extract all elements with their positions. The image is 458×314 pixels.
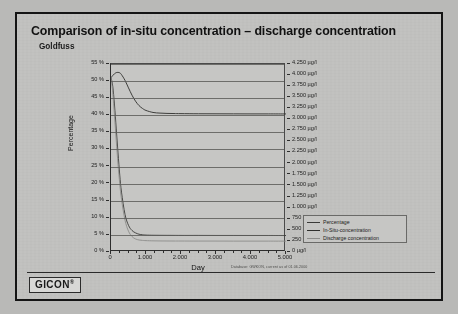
secondary-y-axis-tick-label: 4.250 µg/l: [292, 60, 317, 66]
slide-canvas: Comparison of in-situ concentration – di…: [15, 12, 443, 301]
x-axis-tick-mark: [110, 251, 111, 254]
secondary-y-axis-tick-mark: [287, 196, 290, 197]
y-axis-tick-mark: [106, 80, 109, 81]
x-axis-minor-tick: [154, 251, 155, 253]
x-axis-minor-tick: [206, 251, 207, 253]
x-axis-minor-tick: [276, 251, 277, 253]
secondary-y-axis-tick-mark: [287, 162, 290, 163]
x-axis-tick-mark: [250, 251, 251, 254]
secondary-y-axis-tick-mark: [287, 140, 290, 141]
legend-label: In-Situ-concentration: [323, 227, 371, 233]
gridline: [111, 184, 284, 185]
x-axis-minor-tick: [198, 251, 199, 253]
x-axis-minor-tick: [241, 251, 242, 253]
gridline: [111, 115, 284, 116]
secondary-y-axis-tick-label: 4.000 µg/l: [292, 71, 317, 77]
registered-mark: ®: [70, 279, 75, 285]
x-axis-tick-mark: [215, 251, 216, 254]
legend-item[interactable]: Discharge concentration: [307, 234, 403, 242]
gridline: [111, 98, 284, 99]
secondary-y-axis-tick-mark: [287, 207, 290, 208]
series-lines: [111, 64, 286, 252]
y-axis-tick-label: 20 %: [91, 180, 104, 186]
secondary-y-axis-tick-mark: [287, 96, 290, 97]
gridline: [111, 149, 284, 150]
x-axis-minor-tick: [163, 251, 164, 253]
x-axis-minor-tick: [119, 251, 120, 253]
secondary-y-axis-tick-label: 2.000 µg/l: [292, 160, 317, 166]
y-axis-tick-label: 10 %: [91, 214, 104, 220]
series-line-percentage: [111, 78, 286, 236]
gridline: [111, 201, 284, 202]
series-line-discharge-concentration: [111, 78, 286, 241]
secondary-y-axis-tick-mark: [287, 251, 290, 252]
secondary-y-axis-tick-mark: [287, 118, 290, 119]
series-line-in-situ-concentration: [111, 72, 286, 114]
legend-item[interactable]: Percentage: [307, 218, 403, 226]
secondary-y-axis-tick-label: 0 µg/l: [292, 248, 306, 254]
y-axis-tick-label: 5 %: [94, 231, 104, 237]
logo-text: GICON: [35, 279, 70, 290]
x-axis-tick-label: 1.000: [138, 254, 153, 260]
footer-divider: [27, 272, 435, 273]
x-axis-tick-label: 2.000: [173, 254, 188, 260]
y-axis-tick-mark: [106, 63, 109, 64]
secondary-y-axis-tick-label: 3.750 µg/l: [292, 82, 317, 88]
secondary-y-axis-tick-mark: [287, 184, 290, 185]
x-axis-tick-mark: [145, 251, 146, 254]
chart-container: Percentage 0 %5 %10 %15 %20 %25 %30 %35 …: [17, 14, 445, 303]
y-axis-tick-label: 45 %: [91, 94, 104, 100]
gridline: [111, 167, 284, 168]
legend-color-swatch: [307, 238, 320, 239]
secondary-y-axis-tick-label: 3.500 µg/l: [292, 93, 317, 99]
secondary-y-axis-tick-label: 1.000 µg/l: [292, 204, 317, 210]
y-axis-tick-mark: [106, 200, 109, 201]
secondary-y-axis-tick-label: 1.500 µg/l: [292, 182, 317, 188]
legend-item[interactable]: In-Situ-concentration: [307, 226, 403, 234]
secondary-y-axis-tick-mark: [287, 229, 290, 230]
y-axis-tick-label: 30 %: [91, 145, 104, 151]
y-axis-tick-mark: [106, 114, 109, 115]
secondary-y-axis-tick-label: 1.750 µg/l: [292, 171, 317, 177]
y-axis-label: Percentage: [67, 115, 74, 151]
y-axis-tick-mark: [106, 234, 109, 235]
x-axis-minor-tick: [128, 251, 129, 253]
x-axis-minor-tick: [233, 251, 234, 253]
x-axis-minor-tick: [171, 251, 172, 253]
y-axis-tick-mark: [106, 131, 109, 132]
legend-label: Discharge concentration: [323, 235, 379, 241]
y-axis-tick-mark: [106, 251, 109, 252]
x-axis-minor-tick: [268, 251, 269, 253]
x-axis-tick-mark: [180, 251, 181, 254]
x-axis-tick-label: 0: [108, 254, 111, 260]
y-axis-tick-label: 35 %: [91, 128, 104, 134]
secondary-y-axis-tick-mark: [287, 63, 290, 64]
secondary-y-axis-tick-label: 2.500 µg/l: [292, 137, 317, 143]
x-axis-minor-tick: [224, 251, 225, 253]
secondary-y-axis-tick-mark: [287, 129, 290, 130]
x-axis-minor-tick: [189, 251, 190, 253]
gridline: [111, 81, 284, 82]
y-axis-tick-label: 55 %: [91, 60, 104, 66]
gridline: [111, 64, 284, 65]
legend-label: Percentage: [323, 219, 350, 225]
y-axis-tick-mark: [106, 165, 109, 166]
x-axis-minor-tick: [259, 251, 260, 253]
secondary-y-axis-tick-mark: [287, 107, 290, 108]
plot-area: [110, 63, 285, 251]
legend-color-swatch: [307, 230, 320, 231]
source-note: Database: GWKON, current as of 01.06.200…: [231, 265, 307, 269]
x-axis-tick-label: 3.000: [208, 254, 223, 260]
x-axis-minor-tick: [136, 251, 137, 253]
secondary-y-axis-tick-mark: [287, 240, 290, 241]
secondary-y-axis-tick-mark: [287, 151, 290, 152]
x-axis-tick-mark: [285, 251, 286, 254]
chart-legend: PercentageIn-Situ-concentrationDischarge…: [303, 215, 407, 243]
secondary-y-axis-tick-label: 3.000 µg/l: [292, 115, 317, 121]
y-axis-tick-mark: [106, 217, 109, 218]
secondary-y-axis-tick-mark: [287, 85, 290, 86]
secondary-y-axis-tick-label: 1.250 µg/l: [292, 193, 317, 199]
y-axis-tick-label: 25 %: [91, 163, 104, 169]
secondary-y-axis-tick-label: 2.750 µg/l: [292, 126, 317, 132]
gicon-logo: GICON®: [29, 277, 81, 293]
